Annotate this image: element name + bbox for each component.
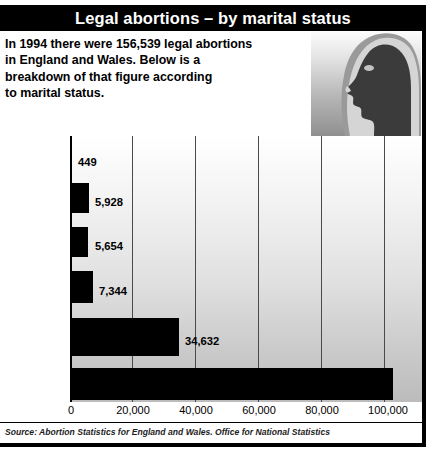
woman-head-silhouette-icon <box>311 31 421 136</box>
bar-value-separated: 5,928 <box>95 197 123 208</box>
bar-married <box>70 318 179 356</box>
bar-single <box>70 368 393 400</box>
infographic-root: Legal abortions – by marital status In 1… <box>0 0 426 449</box>
intro-line-1: In 1994 there were 156,539 legal abortio… <box>5 36 305 52</box>
intro-line-4: to marital status. <box>5 85 305 101</box>
intro-line-2: in England and Wales. Below is a <box>5 52 305 68</box>
title-bar: Legal abortions – by marital status <box>0 5 426 31</box>
x-tick-60000: 60,000 <box>242 404 276 416</box>
intro-band: In 1994 there were 156,539 legal abortio… <box>0 31 426 136</box>
x-tick-80000: 80,000 <box>305 404 339 416</box>
bar-value-married: 34,632 <box>185 336 219 347</box>
bar-value-not-stated: 5,654 <box>95 241 123 252</box>
bar-not-stated <box>70 227 88 257</box>
source-text: Source: Abortion Statistics for England … <box>5 427 330 437</box>
source-bar: Source: Abortion Statistics for England … <box>0 423 426 443</box>
x-tick-40000: 40,000 <box>179 404 213 416</box>
bar-separated <box>70 183 89 213</box>
intro-line-3: breakdown of that figure according <box>5 69 305 85</box>
category-label-column <box>0 136 70 402</box>
x-tick-0: 0 <box>68 404 74 416</box>
page-title: Legal abortions – by marital status <box>75 9 351 28</box>
bar-chart: Widowed 449 Separated 5,928 Not stated 5… <box>0 136 426 402</box>
x-tick-20000: 20,000 <box>116 404 150 416</box>
bar-divorced <box>70 271 93 303</box>
intro-paragraph: In 1994 there were 156,539 legal abortio… <box>5 36 305 102</box>
right-border <box>422 31 426 443</box>
x-axis: 0 20,000 40,000 60,000 80,000 100,000 <box>0 402 426 422</box>
x-tick-100000: 100,000 <box>368 404 408 416</box>
y-axis-line <box>70 136 72 402</box>
bar-value-divorced: 7,344 <box>99 286 127 297</box>
bottom-border <box>0 443 426 447</box>
bar-value-widowed: 449 <box>78 157 97 168</box>
